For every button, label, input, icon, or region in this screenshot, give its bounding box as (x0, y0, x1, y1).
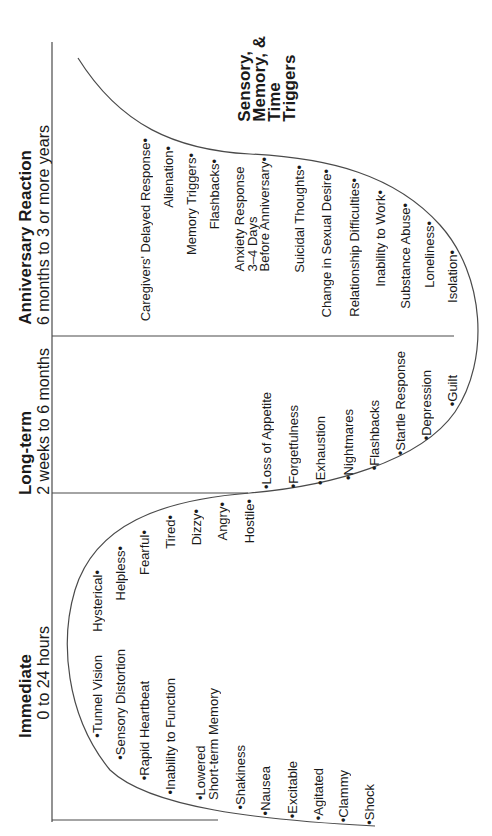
bullet-icon: • (137, 775, 152, 780)
trauma-response-diagram: Immediate 0 to 24 hours •Tunnel Vision •… (0, 0, 492, 836)
symptom-alienation: Alienation• (162, 146, 175, 208)
bullet-icon: • (137, 530, 152, 535)
symptom-flashbacks-long-term: •Flashbacks (368, 400, 381, 470)
bullet-icon: • (336, 817, 351, 822)
symptom-depression: •Depression (420, 370, 433, 440)
bullet-icon: • (398, 203, 413, 208)
symptom-tunnel-vision: •Tunnel Vision (91, 655, 104, 738)
bullet-icon: • (189, 509, 204, 514)
bullet-icon: • (163, 790, 178, 795)
bullet-icon: • (113, 755, 128, 760)
symptom-substance-abuse: Substance Abuse• (399, 203, 412, 309)
bullet-icon: • (292, 165, 307, 170)
symptom-lowered-short-term-memory: •Lowered Short-term Memory (195, 688, 220, 800)
symptom-loss-of-appetite: •Loss of Appetite (260, 392, 273, 489)
symptom-inability-to-work: Inability to Work• (374, 190, 387, 287)
phase-subtitle-long-term: 2 weeks to 6 months (36, 348, 52, 495)
symptom-hostile: Hostile• (243, 499, 256, 543)
triggers-label: Sensory, Memory, & Time Triggers (237, 36, 297, 122)
bullet-icon: • (362, 820, 377, 825)
symptom-relationship-difficulties: Relationship Difficulties• (348, 178, 361, 317)
symptom-dizzy: Dizzy• (190, 509, 203, 545)
bullet-icon: • (319, 169, 334, 174)
symptom-agitated: •Agitated (312, 768, 325, 820)
bullet-icon: • (419, 435, 434, 440)
symptom-nausea: •Nausea (259, 766, 272, 815)
symptom-isolation: Isolation• (446, 250, 459, 303)
symptom-shock: •Shock (363, 784, 376, 825)
symptom-rapid-heartbeat: •Rapid Heartbeat (138, 681, 151, 780)
bullet-icon: • (393, 450, 408, 455)
bullet-icon: • (184, 153, 199, 158)
bullet-icon: • (215, 502, 230, 507)
bullet-icon: • (367, 465, 382, 470)
bullet-icon: • (207, 159, 222, 164)
symptom-clammy: •Clammy (337, 770, 350, 822)
bullet-icon: • (258, 810, 273, 815)
symptom-helpless: Helpless• (114, 546, 127, 600)
bullet-icon: • (113, 546, 128, 551)
bullet-icon: • (242, 499, 257, 504)
symptom-exhaustion: •Exhaustion (314, 416, 327, 485)
bullet-icon: • (341, 475, 356, 480)
symptom-anxiety-response: Anxiety Response 3–4 Days Before Anniver… (234, 157, 272, 271)
symptom-fearful: Fearful• (138, 530, 151, 575)
bullet-icon: • (286, 483, 301, 488)
symptom-tired: Tired• (164, 515, 177, 549)
symptom-change-in-sexual-desire: Change in Sexual Desire• (320, 169, 333, 317)
bullet-icon: • (445, 401, 460, 406)
bullet-icon: • (90, 570, 105, 575)
symptom-shakiness: •Shakiness (234, 745, 247, 810)
symptom-flashbacks-anniversary: Flashbacks• (208, 159, 221, 229)
symptom-sensory-distortion: •Sensory Distortion (114, 649, 127, 760)
bullet-icon: • (233, 805, 248, 810)
symptom-excitable: •Excitable (286, 761, 299, 818)
symptom-startle-response: •Startle Response (394, 351, 407, 455)
phase-title-immediate: Immediate (17, 654, 34, 738)
bullet-icon: • (373, 190, 388, 195)
symptom-loneliness: Loneliness• (423, 221, 436, 288)
symptom-suicidal-thoughts: Suicidal Thoughts• (293, 165, 306, 273)
bullet-icon: • (259, 484, 274, 489)
symptom-guilt: •Guilt (446, 375, 459, 406)
symptom-angry: Angry• (216, 502, 229, 541)
bullet-icon: • (313, 480, 328, 485)
symptom-forgetfulness: •Forgetfulness (287, 405, 300, 488)
phase-subtitle-immediate: 0 to 24 hours (36, 626, 52, 719)
bullet-icon: • (138, 138, 153, 143)
symptom-hysterical: Hysterical• (91, 570, 104, 632)
phase-subtitle-anniversary: 6 months to 3 or more years (36, 125, 52, 325)
bullet-icon: • (285, 813, 300, 818)
bullet-icon: • (161, 146, 176, 151)
bullet-icon: • (90, 733, 105, 738)
bullet-icon: • (311, 815, 326, 820)
symptom-nightmares: •Nightmares (342, 409, 355, 480)
bullet-icon: • (445, 250, 460, 255)
symptom-caregivers-delayed-response: Caregivers' Delayed Response• (139, 138, 152, 321)
bullet-icon: • (163, 515, 178, 520)
symptom-inability-to-function: •Inability to Function (164, 678, 177, 795)
bullet-icon: • (257, 157, 272, 162)
bullet-icon: • (422, 221, 437, 226)
phase-title-anniversary: Anniversary Reaction (17, 150, 34, 325)
bullet-icon: • (347, 178, 362, 183)
phase-title-long-term: Long-term (17, 411, 34, 495)
symptom-memory-triggers: Memory Triggers• (185, 153, 198, 255)
